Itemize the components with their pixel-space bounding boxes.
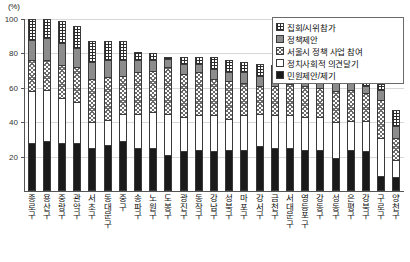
bar-segment [164,67,172,113]
bar-segment [134,60,142,72]
x-axis-label: 송파구 [133,194,143,220]
x-axis-label: 성동구 [331,194,341,220]
bar-column[interactable] [225,60,233,191]
bar-segment [73,67,81,101]
bar-segment [73,48,81,67]
x-axis-label: 노원구 [148,194,158,220]
bar-column[interactable] [149,53,157,191]
legend-item[interactable]: 서울시 정책 사업 참여 [276,45,400,56]
bar-segment [149,112,157,148]
bar-column[interactable] [43,19,51,191]
bar-column[interactable] [271,65,279,191]
bar-segment [347,150,355,191]
bar-segment [362,93,370,121]
bar-column[interactable] [134,52,142,191]
bar-segment [58,98,66,143]
bar-column[interactable] [195,57,203,191]
x-axis-label: 구로구 [376,194,386,220]
bar-segment [149,71,157,112]
bar-column[interactable] [316,69,324,191]
bar-segment [119,114,127,142]
bar-segment [225,150,233,191]
legend-item[interactable]: 민원제안/제기 [276,69,400,80]
x-axis-label: 도봉구 [163,194,173,220]
bar-segment [134,72,142,113]
bar-segment [104,41,112,60]
bar-segment [180,117,188,151]
bar-segment [43,141,51,191]
bar-segment [240,62,248,72]
y-tick-label: 80 [0,49,18,58]
bar-segment [210,115,218,151]
bar-column[interactable] [164,57,172,191]
bar-segment [195,72,203,115]
bar-segment [301,117,309,150]
bar-segment [271,115,279,148]
bar-segment [164,59,172,68]
bar-column[interactable] [347,72,355,191]
bar-column[interactable] [88,41,96,191]
bar-column[interactable] [28,19,36,191]
x-axis-label: 중랑구 [57,194,67,220]
bar-segment [301,86,309,117]
x-axis-label: 서초구 [87,194,97,220]
bar-column[interactable] [256,64,264,191]
bar-segment [286,115,294,148]
bar-segment [180,64,188,74]
x-axis-label: 양천구 [391,194,401,220]
bar-segment [43,90,51,142]
x-axis-label: 동대문구 [103,194,113,228]
bar-segment [316,88,324,117]
bar-column[interactable] [392,110,400,191]
legend-item[interactable]: 정책제안 [276,33,400,44]
diagonal-crosshatch-swatch [276,47,284,55]
bar-column[interactable] [210,57,218,191]
bar-segment [271,86,279,115]
bar-segment [210,79,218,115]
bar-segment [392,177,400,191]
x-axis-label: 강동구 [315,194,325,220]
bar-segment [286,148,294,191]
bar-segment [240,72,248,82]
bar-segment [88,62,96,79]
legend-item[interactable]: 정치사회적 의견달기 [276,57,400,68]
legend-item[interactable]: 집회/시위참가 [276,21,400,32]
x-axis-label: 관악구 [72,194,82,220]
legend-label: 정치사회적 의견달기 [287,57,358,69]
bar-segment [58,65,66,98]
bar-segment [392,110,400,125]
bar-column[interactable] [73,26,81,191]
x-axis-line [24,191,404,192]
chart-legend: 집회/시위참가정책제안서울시 정책 사업 참여정치사회적 의견달기민원제안/제기 [272,17,404,84]
y-tick-label: 100 [0,15,18,24]
bar-column[interactable] [332,72,340,191]
x-axis-label: 강남구 [209,194,219,220]
bar-segment [316,117,324,150]
bar-column[interactable] [180,57,188,191]
solid-black-swatch [276,71,284,79]
bar-segment [134,52,142,61]
bar-segment [392,126,400,138]
bar-segment [28,91,36,143]
bar-segment [362,86,370,93]
x-axis-label: 은평구 [346,194,356,220]
bar-column[interactable] [240,62,248,191]
bar-column[interactable] [286,65,294,191]
bar-segment [134,114,142,148]
bar-column[interactable] [377,84,385,191]
bar-segment [180,151,188,191]
bar-column[interactable] [58,21,66,191]
x-axis-label: 종로구 [27,194,37,220]
stacked-bar-chart: (%) 20406080100 종로구용산구중랑구관악구서초구동대문구중구송파구… [0,0,410,262]
bar-column[interactable] [362,78,370,191]
bar-segment [362,121,370,152]
x-axis-label: 마포구 [239,194,249,220]
legend-label: 집회/시위참가 [287,21,335,33]
bar-column[interactable] [104,41,112,191]
bar-column[interactable] [119,41,127,191]
bar-segment [225,60,233,72]
solid-gray-swatch [276,35,284,43]
bar-segment [256,114,264,147]
bar-column[interactable] [301,67,309,191]
bar-segment [271,148,279,191]
